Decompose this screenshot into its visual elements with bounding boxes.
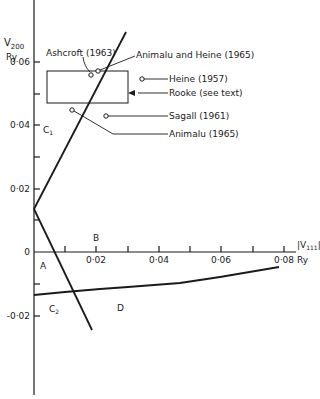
region-label-c2: C2: [49, 304, 59, 315]
xtick-label: 0·06: [211, 255, 231, 265]
annotation-animalu: Animalu (1965): [169, 129, 239, 139]
point-ashcroft: [89, 73, 93, 77]
ytick-label: 0·06: [10, 57, 30, 67]
rooke-arrow-icon: [128, 90, 135, 96]
ytick-label: -0·02: [7, 311, 30, 321]
rooke-region: [47, 71, 128, 103]
ytick-label: 0·02: [10, 184, 30, 194]
leader-lines: [74, 56, 168, 134]
annotation-ashcroft: Ashcroft (1963): [46, 48, 116, 58]
y-ticks: [34, 62, 40, 316]
point-heine: [140, 77, 144, 81]
region-label-b: B: [93, 233, 99, 243]
x-ticks: [65, 246, 284, 252]
point-animalu: [70, 108, 74, 112]
region-label-d: D: [117, 303, 124, 313]
annotation-animalu-heine: Animalu and Heine (1965): [136, 50, 254, 60]
region-label-a: A: [40, 261, 47, 271]
series-c1: [34, 32, 126, 209]
series: [34, 32, 279, 330]
point-animalu-heine: [96, 69, 100, 73]
annotation-heine: Heine (1957): [169, 74, 228, 84]
chart: V200 Ry 0·06 0·04 0·02 0 -0·02 0·02 0·04…: [0, 0, 320, 399]
point-sagall: [104, 114, 108, 118]
xtick-label: 0·08 Ry: [274, 255, 309, 265]
region-label-c1: C1: [43, 125, 53, 136]
ytick-label: 0: [24, 247, 30, 257]
ytick-label: 0·04: [10, 120, 30, 130]
xtick-label: 0·04: [149, 255, 169, 265]
y-axis-title: V200: [4, 37, 24, 51]
x-axis-title: |V111|: [297, 240, 320, 251]
annotation-sagall: Sagall (1961): [169, 111, 229, 121]
xtick-label: 0·02: [86, 255, 106, 265]
annotation-rooke: Rooke (see text): [169, 88, 243, 98]
series-d: [34, 267, 279, 295]
